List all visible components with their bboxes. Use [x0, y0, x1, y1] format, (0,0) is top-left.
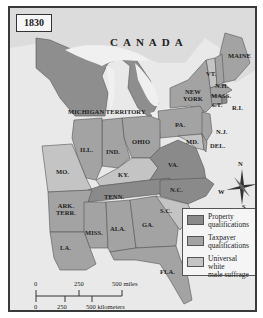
label-north-carolina: N.C.: [170, 186, 183, 193]
label-alabama: ALA.: [110, 225, 126, 232]
map-legend: Propertyqualifications Taxpayerqualifica…: [182, 208, 256, 276]
legend-property-line2: qualifications: [208, 220, 249, 229]
swatch-taxpayer: [187, 236, 204, 246]
label-michigan-territory: MICHIGAN TERRITORY: [68, 108, 146, 115]
compass-icon: [222, 163, 257, 211]
label-south-carolina: S.C.: [160, 207, 172, 214]
label-maine: MAINE: [228, 52, 251, 59]
legend-universal-line2: male suffrage: [208, 270, 249, 279]
label-ohio: OHIO: [132, 138, 150, 145]
legend-universal-line1: Universal white: [208, 254, 237, 271]
label-new-jersey: N.J.: [216, 128, 228, 135]
label-pennsylvania: PA.: [175, 121, 185, 128]
compass-north: N: [238, 160, 243, 167]
label-indiana: IND.: [106, 148, 120, 155]
label-virginia: VA.: [168, 161, 178, 168]
label-maryland: MD.: [186, 138, 199, 145]
label-georgia: GA.: [142, 221, 154, 228]
scale-miles-500: 500 miles: [112, 280, 137, 287]
year-label: 1830: [16, 14, 52, 32]
label-rhode-island: R.I.: [232, 104, 243, 111]
compass-west: W: [218, 188, 225, 195]
scale-km-0: 0: [34, 303, 37, 310]
label-florida: FLA.: [160, 268, 175, 275]
label-new-hampshire: N.H.: [215, 82, 228, 89]
label-kentucky: KY.: [118, 171, 129, 178]
label-vermont: VT.: [206, 70, 216, 77]
compass-rose: N S W E: [222, 163, 257, 211]
label-connecticut: CT.: [212, 101, 222, 108]
label-tennessee: TENN.: [104, 193, 124, 200]
label-massachusetts: MASS.: [211, 92, 231, 99]
scale-km-250: 250: [57, 303, 67, 310]
scale-bar: 0 250 500 miles 0 250 500 kilometers: [24, 278, 134, 312]
swatch-universal: [187, 257, 204, 267]
label-missouri: MO.: [56, 168, 69, 175]
label-new-york: NEW YORK: [182, 88, 204, 102]
scale-miles-250: 250: [74, 280, 84, 287]
label-illinois: ILL.: [80, 146, 93, 153]
canada-label: CANADA: [110, 36, 188, 48]
scale-miles-0: 0: [34, 280, 37, 287]
label-mississippi: MISS.: [85, 229, 103, 236]
legend-item-property: Propertyqualifications: [187, 213, 249, 229]
legend-item-universal: Universal whitemale suffrage: [187, 255, 255, 279]
swatch-property: [187, 215, 204, 225]
label-delaware: DEL.: [210, 142, 225, 149]
scale-km-500: 500 kilometers: [86, 303, 125, 310]
label-louisiana: LA.: [60, 244, 71, 251]
label-arkansas-territory: ARK. TERR.: [54, 202, 78, 216]
legend-taxpayer-line2: qualifications: [208, 241, 249, 250]
map-frame: 1830 CANADA MAINE VT. N.H. MASS. CT. R.I…: [8, 6, 257, 312]
legend-item-taxpayer: Taxpayerqualifications: [187, 234, 249, 250]
